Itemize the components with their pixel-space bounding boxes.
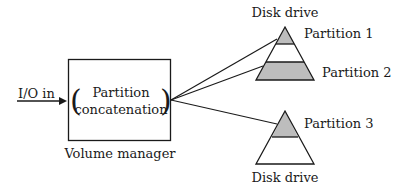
partition-2-label: Partition 2 xyxy=(322,65,392,80)
partition-1-label: Partition 1 xyxy=(304,26,374,41)
io-in-arrowhead-icon xyxy=(59,97,67,105)
volume-manager-text-line1: Partition xyxy=(92,85,150,100)
connector-partition-3 xyxy=(171,100,277,124)
volume-manager-diagram: I/O in ( ) Partition concatenation Volum… xyxy=(0,0,399,192)
disk-drive-top-label: Disk drive xyxy=(252,5,319,20)
connector-partition-2 xyxy=(171,66,263,100)
volume-manager-box xyxy=(69,60,171,141)
volume-manager-caption: Volume manager xyxy=(63,146,176,161)
disk-drive-bottom-label: Disk drive xyxy=(252,170,319,185)
io-in-label: I/O in xyxy=(18,86,55,101)
volume-manager-text-line2: concatenation xyxy=(74,102,168,117)
partition-1-shape xyxy=(276,27,294,44)
partition-3-label: Partition 3 xyxy=(304,116,374,131)
disk-drive-top: Disk drive Partition 1 Partition 2 xyxy=(252,5,392,80)
